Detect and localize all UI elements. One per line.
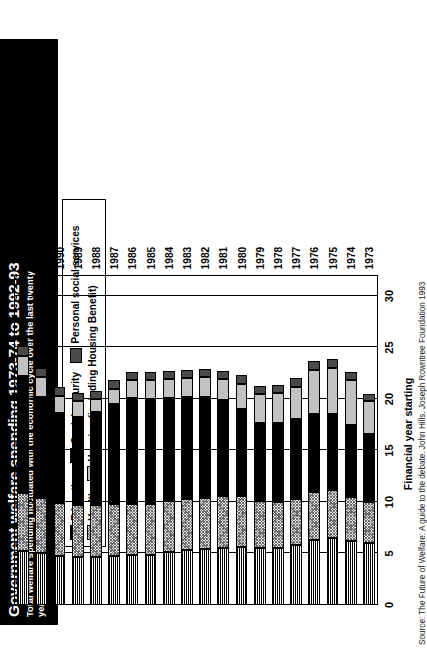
segment-1977-housing-including-housing-benefit xyxy=(290,387,302,419)
bar-1989[interactable] xyxy=(72,275,84,605)
segment-1987-housing-including-housing-benefit xyxy=(108,389,120,404)
segment-1974-housing-including-housing-benefit xyxy=(345,380,357,424)
segment-1992-health xyxy=(17,493,29,552)
gridline-10 xyxy=(14,501,378,502)
category-label-1979: 1979 xyxy=(254,247,265,270)
segment-1976-personal-social-services xyxy=(308,361,320,370)
category-label-1984: 1984 xyxy=(163,247,174,270)
segment-1976-education xyxy=(308,540,320,605)
category-label-1975: 1975 xyxy=(327,247,338,270)
segment-1979-social-security xyxy=(254,423,266,501)
segment-1984-education xyxy=(163,552,175,605)
segment-1991-health xyxy=(35,498,47,554)
segment-1987-health xyxy=(108,504,120,556)
bar-1975[interactable] xyxy=(327,275,339,605)
segment-1988-housing-including-housing-benefit xyxy=(90,399,102,412)
segment-1988-education xyxy=(90,557,102,605)
bar-1987[interactable] xyxy=(108,275,120,605)
bar-1990[interactable] xyxy=(54,275,66,605)
category-axis-title: Financial year starting xyxy=(402,378,414,490)
gridline-15 xyxy=(14,450,378,451)
segment-1974-personal-social-services xyxy=(345,372,357,380)
segment-1990-health xyxy=(54,503,66,556)
segment-1984-health xyxy=(163,501,175,553)
plot-frame xyxy=(14,275,378,605)
segment-1990-housing-including-housing-benefit xyxy=(54,396,66,414)
segment-1989-education xyxy=(72,557,84,605)
segment-1981-personal-social-services xyxy=(217,371,229,379)
value-tick-0: 0 xyxy=(383,602,395,608)
segment-1984-personal-social-services xyxy=(163,371,175,379)
bar-1980[interactable] xyxy=(236,275,248,605)
bar-1991[interactable] xyxy=(35,275,47,605)
value-tick-20: 20 xyxy=(383,393,395,405)
segment-1985-health xyxy=(145,504,157,554)
bar-1988[interactable] xyxy=(90,275,102,605)
segment-1991-social-security xyxy=(35,397,47,498)
category-label-1985: 1985 xyxy=(145,247,156,270)
category-label-1981: 1981 xyxy=(218,247,229,270)
segment-1984-social-security xyxy=(163,398,175,501)
segment-1973-housing-including-housing-benefit xyxy=(363,401,375,434)
segment-1979-housing-including-housing-benefit xyxy=(254,394,266,423)
segment-1989-social-security xyxy=(72,417,84,506)
segment-1986-personal-social-services xyxy=(126,372,138,380)
segment-1975-housing-including-housing-benefit xyxy=(327,368,339,414)
bar-1981[interactable] xyxy=(217,275,229,605)
bar-1984[interactable] xyxy=(163,275,175,605)
bar-1982[interactable] xyxy=(199,275,211,605)
segment-1989-personal-social-services xyxy=(72,393,84,401)
bar-1977[interactable] xyxy=(290,275,302,605)
category-label-1982: 1982 xyxy=(200,247,211,270)
segment-1977-personal-social-services xyxy=(290,378,302,386)
segment-1979-education xyxy=(254,548,266,605)
segment-1990-social-security xyxy=(54,413,66,503)
segment-1986-social-security xyxy=(126,398,138,504)
category-label-1986: 1986 xyxy=(127,247,138,270)
segment-1979-health xyxy=(254,501,266,548)
segment-1979-personal-social-services xyxy=(254,386,266,394)
segment-1975-social-security xyxy=(327,414,339,489)
segment-1987-education xyxy=(108,556,120,605)
segment-1982-social-security xyxy=(199,397,211,498)
bar-1983[interactable] xyxy=(181,275,193,605)
bar-1973[interactable] xyxy=(363,275,375,605)
category-label-1990: 1990 xyxy=(54,247,65,270)
segment-1989-housing-including-housing-benefit xyxy=(72,401,84,416)
segment-1975-education xyxy=(327,538,339,605)
segment-1981-health xyxy=(217,496,229,549)
segment-1983-education xyxy=(181,550,193,605)
category-label-1974: 1974 xyxy=(345,247,356,270)
segment-1988-health xyxy=(90,505,102,557)
bar-1992[interactable] xyxy=(17,275,29,605)
segment-1982-personal-social-services xyxy=(199,369,211,377)
segment-1991-education xyxy=(35,554,47,606)
segment-1974-social-security xyxy=(345,425,357,497)
category-label-1992: 1992 xyxy=(18,247,29,270)
segment-1976-housing-including-housing-benefit xyxy=(308,370,320,414)
segment-1983-personal-social-services xyxy=(181,370,193,378)
segment-1992-housing-including-housing-benefit xyxy=(17,356,29,377)
segment-1978-health xyxy=(272,502,284,548)
segment-1985-social-security xyxy=(145,399,157,504)
gridline-30 xyxy=(14,295,378,296)
category-label-1976: 1976 xyxy=(309,247,320,270)
plot-area xyxy=(14,275,378,605)
segment-1978-education xyxy=(272,548,284,605)
bar-1985[interactable] xyxy=(145,275,157,605)
segment-1975-personal-social-services xyxy=(327,359,339,368)
bar-1974[interactable] xyxy=(345,275,357,605)
segment-1986-housing-including-housing-benefit xyxy=(126,380,138,398)
segment-1980-health xyxy=(236,496,248,548)
category-label-1973: 1973 xyxy=(363,247,374,270)
bar-1978[interactable] xyxy=(272,275,284,605)
segment-1977-health xyxy=(290,499,302,545)
segment-1981-housing-including-housing-benefit xyxy=(217,379,229,400)
segment-1974-health xyxy=(345,497,357,541)
bar-1986[interactable] xyxy=(126,275,138,605)
bar-1979[interactable] xyxy=(254,275,266,605)
segment-1992-personal-social-services xyxy=(17,346,29,355)
segment-1983-social-security xyxy=(181,397,193,499)
segment-1976-health xyxy=(308,492,320,540)
bar-1976[interactable] xyxy=(308,275,320,605)
